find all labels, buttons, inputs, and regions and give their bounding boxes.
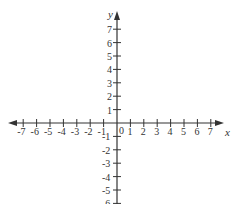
x-ticks: -7-6-5-4-3-2-11234567: [17, 119, 213, 137]
x-axis-right-arrow-icon: [215, 120, 224, 126]
x-tick-label: 4: [168, 126, 173, 137]
x-tick-label: -6: [31, 126, 39, 137]
x-tick-label: 6: [194, 126, 199, 137]
x-axis-left-arrow-icon: [8, 120, 17, 126]
y-axis-up-arrow-icon: [114, 11, 120, 20]
x-tick-label: -3: [71, 126, 79, 137]
x-tick-label: -7: [17, 126, 25, 137]
y-tick-label: -2: [102, 145, 110, 156]
y-tick-label: -3: [102, 158, 110, 169]
x-tick-label: 5: [181, 126, 186, 137]
y-ticks: 7654321-1-2-3-4-5-6: [102, 24, 121, 204]
x-tick-label: 3: [154, 126, 159, 137]
y-tick-label: -4: [102, 172, 110, 183]
x-tick-label: -5: [44, 126, 52, 137]
y-tick-label: 2: [107, 91, 112, 102]
x-tick-label: -2: [84, 126, 92, 137]
x-axis-label: x: [224, 126, 230, 138]
y-tick-label: -5: [102, 185, 110, 196]
y-tick-label: 4: [107, 64, 112, 75]
y-tick-label: 5: [107, 51, 112, 62]
x-tick-label: -4: [57, 126, 65, 137]
coordinate-plane: y x 0 -7-6-5-4-3-2-11234567 7654321-1-2-…: [0, 0, 231, 204]
y-tick-label: 6: [107, 38, 112, 49]
y-tick-label: -6: [102, 198, 110, 204]
y-tick-label: 1: [107, 105, 112, 116]
x-tick-label: 2: [141, 126, 146, 137]
y-tick-label: 7: [107, 24, 112, 35]
y-axis-label: y: [107, 8, 113, 20]
origin-label: 0: [119, 125, 124, 136]
x-tick-label: 7: [208, 126, 213, 137]
y-tick-label: 3: [107, 78, 112, 89]
x-tick-label: 1: [127, 126, 132, 137]
y-tick-label: -1: [102, 131, 110, 142]
